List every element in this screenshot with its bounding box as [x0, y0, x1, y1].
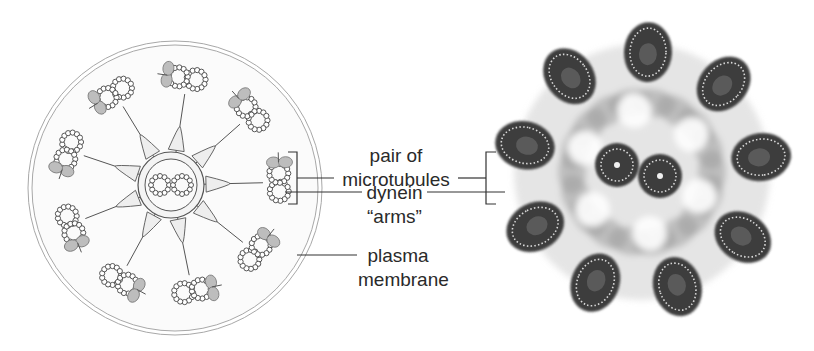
label-dynein-line2: “arms”: [362, 206, 427, 227]
bracket-right: [486, 152, 496, 204]
cilium-diagram: [28, 41, 322, 335]
label-membrane-line2: membrane: [358, 269, 438, 290]
label-plasma-membrane: plasma membrane: [358, 245, 438, 290]
label-pair-line1: pair of: [334, 145, 458, 166]
electron-micrograph: [490, 21, 793, 322]
label-membrane-line1: plasma: [358, 245, 438, 266]
label-dynein-line1: dynein: [362, 182, 427, 203]
label-dynein-arms: dynein “arms”: [362, 182, 427, 227]
figure: pair of microtubules dynein “arms” plasm…: [0, 0, 814, 351]
